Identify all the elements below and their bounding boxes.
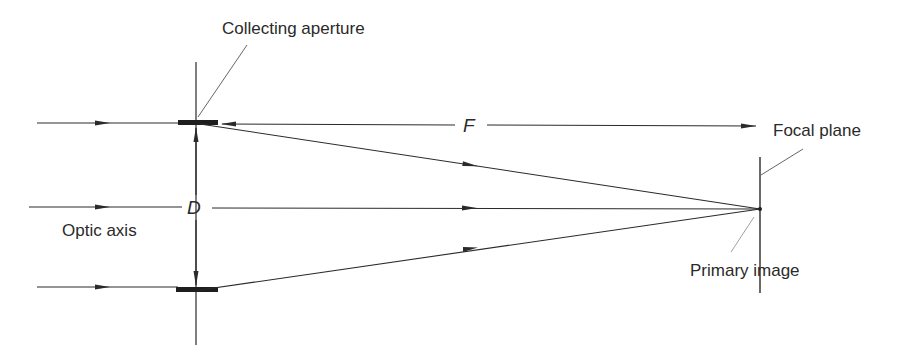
focal-length-dimension <box>221 122 756 129</box>
aperture-stop-bottom <box>176 287 218 292</box>
label-focal-length: F <box>463 116 475 135</box>
label-optic-axis: Optic axis <box>62 222 137 239</box>
label-collecting-aperture: Collecting aperture <box>222 20 365 37</box>
leader-collecting-aperture <box>198 45 247 117</box>
arrow-down-icon <box>194 271 199 286</box>
leader-focal-plane <box>761 149 803 175</box>
label-primary-image: Primary image <box>690 262 800 279</box>
arrow-icon <box>462 161 478 166</box>
focal-point <box>758 207 762 211</box>
optics-diagram <box>0 0 911 362</box>
incoming-ray-top <box>37 121 178 126</box>
aperture-stop-top <box>178 120 218 125</box>
label-focal-plane: Focal plane <box>773 122 861 139</box>
arrow-left-icon <box>221 122 236 127</box>
arrow-right-icon <box>741 124 756 129</box>
incoming-ray-bottom <box>37 285 178 290</box>
incoming-ray-axis <box>29 205 182 210</box>
arrow-icon <box>95 285 110 290</box>
arrow-icon <box>462 206 477 211</box>
arrow-up-icon <box>194 127 199 142</box>
converging-ray-bottom <box>200 209 760 290</box>
leader-primary-image <box>731 217 754 252</box>
optic-axis-line <box>212 206 760 211</box>
label-diameter: D <box>187 198 201 217</box>
arrow-icon <box>95 205 110 210</box>
arrow-icon <box>95 121 110 126</box>
converging-ray-top <box>200 124 760 209</box>
